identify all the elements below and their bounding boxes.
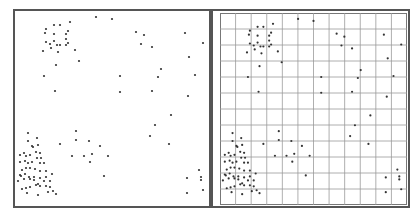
data-point bbox=[23, 152, 25, 154]
data-point bbox=[49, 180, 51, 182]
data-point bbox=[233, 154, 235, 156]
data-point bbox=[200, 179, 202, 181]
data-point bbox=[262, 45, 264, 47]
data-point bbox=[278, 130, 280, 132]
data-point bbox=[233, 177, 235, 179]
data-point bbox=[255, 172, 257, 174]
data-point bbox=[305, 174, 307, 176]
data-point bbox=[256, 41, 258, 43]
data-point bbox=[111, 18, 113, 20]
data-point bbox=[253, 185, 255, 187]
data-point bbox=[198, 169, 200, 171]
data-point bbox=[228, 177, 230, 179]
data-point bbox=[184, 32, 186, 34]
data-point bbox=[235, 161, 237, 163]
data-point bbox=[45, 170, 47, 172]
data-point bbox=[262, 26, 264, 28]
data-point bbox=[57, 51, 59, 53]
data-point bbox=[78, 60, 80, 62]
data-point bbox=[241, 144, 243, 146]
data-point bbox=[237, 178, 239, 180]
data-point bbox=[21, 169, 23, 171]
data-point bbox=[246, 51, 248, 53]
data-point bbox=[301, 145, 303, 147]
data-point bbox=[351, 47, 353, 49]
data-point bbox=[243, 184, 245, 186]
data-point bbox=[225, 174, 227, 176]
data-point bbox=[240, 137, 242, 139]
data-point bbox=[39, 152, 41, 154]
data-point bbox=[32, 146, 34, 148]
data-point bbox=[239, 183, 241, 185]
data-point bbox=[103, 175, 105, 177]
data-point bbox=[277, 50, 279, 52]
data-point bbox=[202, 42, 204, 44]
data-point bbox=[320, 92, 322, 94]
data-point bbox=[268, 39, 270, 41]
data-point bbox=[400, 43, 402, 45]
data-point bbox=[95, 16, 97, 18]
data-point bbox=[243, 176, 245, 178]
data-point bbox=[229, 172, 231, 174]
data-point bbox=[231, 162, 233, 164]
data-point bbox=[253, 179, 255, 181]
data-point bbox=[249, 175, 251, 177]
data-point bbox=[25, 155, 27, 157]
data-point bbox=[91, 153, 93, 155]
data-point bbox=[367, 143, 369, 145]
data-point bbox=[291, 161, 293, 163]
data-point bbox=[74, 49, 76, 51]
data-point bbox=[336, 33, 338, 35]
data-point bbox=[297, 18, 299, 20]
data-point bbox=[17, 180, 19, 182]
data-point bbox=[160, 68, 162, 70]
data-point bbox=[398, 178, 400, 180]
data-point bbox=[241, 193, 243, 195]
data-point bbox=[224, 154, 226, 156]
data-point bbox=[385, 191, 387, 193]
data-point bbox=[256, 26, 258, 28]
data-point bbox=[45, 28, 47, 30]
data-point bbox=[383, 34, 385, 36]
data-point bbox=[24, 173, 26, 175]
data-point bbox=[59, 24, 61, 26]
data-point bbox=[36, 137, 38, 139]
data-point bbox=[88, 140, 90, 142]
data-point bbox=[243, 169, 245, 171]
data-point bbox=[186, 192, 188, 194]
data-point bbox=[36, 157, 38, 159]
data-point bbox=[19, 154, 21, 156]
data-point bbox=[229, 160, 231, 162]
data-point bbox=[256, 189, 258, 191]
data-point bbox=[251, 190, 253, 192]
data-point bbox=[400, 188, 402, 190]
data-point bbox=[387, 57, 389, 59]
data-point bbox=[274, 155, 276, 157]
data-point bbox=[27, 162, 29, 164]
data-point bbox=[239, 151, 241, 153]
data-point bbox=[244, 157, 246, 159]
scatter-plot-raw bbox=[15, 11, 213, 210]
data-point bbox=[232, 175, 234, 177]
data-point bbox=[187, 95, 189, 97]
data-point bbox=[270, 43, 272, 45]
data-point bbox=[312, 20, 314, 22]
data-point bbox=[233, 166, 235, 168]
data-point bbox=[43, 75, 45, 77]
data-point bbox=[290, 140, 292, 142]
data-point bbox=[143, 34, 145, 36]
data-point bbox=[35, 184, 37, 186]
data-point bbox=[200, 176, 202, 178]
data-point bbox=[238, 167, 240, 169]
data-point bbox=[186, 177, 188, 179]
data-point bbox=[67, 42, 69, 44]
data-point bbox=[260, 52, 262, 54]
data-point bbox=[52, 190, 54, 192]
data-point bbox=[33, 179, 35, 181]
data-point bbox=[243, 162, 245, 164]
data-point bbox=[243, 152, 245, 154]
data-point bbox=[37, 144, 39, 146]
data-point bbox=[65, 38, 67, 40]
data-point bbox=[262, 143, 264, 145]
data-point bbox=[231, 140, 233, 142]
